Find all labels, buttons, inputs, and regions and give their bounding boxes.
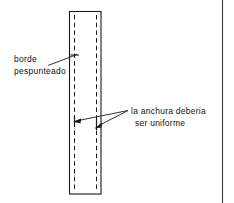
leader-line-anchura-left (76, 111, 128, 122)
figure-canvas: borde pespunteado la anchura deberia ser… (0, 0, 234, 203)
annotation-anchura-line-2: ser uniforme (131, 118, 206, 130)
annotation-borde-line-1: borde (14, 54, 66, 66)
diagram-vector-layer (0, 0, 234, 203)
annotation-borde-pespunteado: borde pespunteado (14, 54, 66, 77)
annotation-anchura-uniforme: la anchura deberia ser uniforme (131, 106, 206, 129)
annotation-borde-line-2: pespunteado (14, 66, 66, 78)
annotation-anchura-line-1: la anchura deberia (131, 106, 206, 118)
leader-line-anchura-right (98, 111, 128, 127)
arrowhead-anchura-right (95, 123, 103, 129)
